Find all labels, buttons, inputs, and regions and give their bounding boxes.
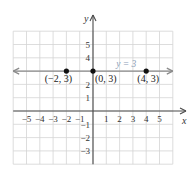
coordinate-graph: −5−4−3−2−1123455421−1−2−3 y = 3 (−2, 3)(… [0,0,196,178]
y-tick-label: −2 [80,133,90,143]
x-tick-label: −2 [62,114,72,124]
y-tick-label: 1 [86,93,91,103]
y-tick-label: 4 [86,53,91,63]
point-label: (−2, 3) [45,73,72,85]
x-tick-label: −4 [35,114,45,124]
x-axis-label: x [181,115,187,126]
x-tick-label: 1 [104,114,109,124]
x-tick-label: −5 [22,114,32,124]
y-axis-label: y [83,13,89,24]
y-tick-label: −3 [80,146,90,156]
y-tick-label: −1 [80,120,90,130]
x-tick-label: 2 [117,114,122,124]
point-label: (4, 3) [137,73,159,85]
y-tick-label: 2 [86,80,91,90]
x-tick-label: 3 [131,114,136,124]
line-equation-label: y = 3 [115,59,136,69]
x-tick-label: 4 [144,114,149,124]
y-tick-label: 5 [86,40,91,50]
axes [13,15,186,164]
point-label: (0, 3) [95,73,117,85]
x-tick-label: 5 [157,114,162,124]
x-tick-label: −3 [48,114,58,124]
